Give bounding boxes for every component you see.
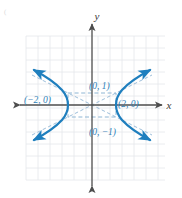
hyperbola-figure: (−2, 0) (2, 0) (0, 1) (0, −1) x y ( <box>0 0 182 198</box>
point-label-left-vertex: (−2, 0) <box>24 95 51 106</box>
point-label-top-covertex: (0, 1) <box>89 81 110 92</box>
hyperbola-right-branch-lower <box>116 105 150 140</box>
hyperbola-graph-svg: (−2, 0) (2, 0) (0, 1) (0, −1) x y ( <box>0 0 182 198</box>
corner-mark: ( <box>4 8 7 16</box>
y-axis-label: y <box>94 10 100 22</box>
x-axis-label: x <box>166 99 172 111</box>
point-label-bottom-covertex: (0, −1) <box>89 127 116 138</box>
grid-lines <box>26 36 165 180</box>
hyperbola-left-branch-lower <box>34 105 68 140</box>
point-label-right-vertex: (2, 0) <box>118 99 139 110</box>
